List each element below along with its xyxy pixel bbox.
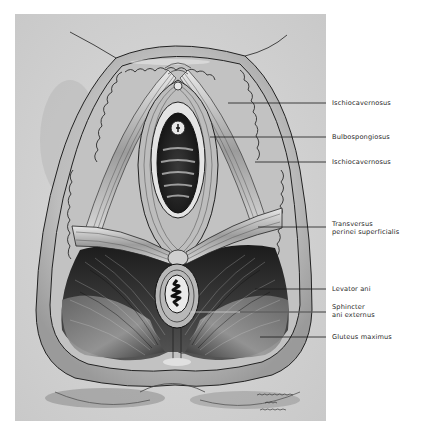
clitoris: [174, 82, 182, 90]
shadow-bottom-right: [190, 391, 300, 409]
label-text: Gluteus maximus: [332, 333, 392, 341]
label-ischiocavernosus-1: Ischiocavernosus: [332, 99, 391, 107]
label-text: Levator ani: [332, 285, 371, 293]
label-text-line-2: perinei superficialis: [332, 228, 399, 236]
label-sphincter-ani-externus: Sphincter ani externus: [332, 303, 375, 320]
fat-highlight: [130, 59, 210, 65]
shadow-bottom-left: [45, 388, 165, 408]
label-text-line-1: Transversus: [332, 220, 399, 228]
label-text: Ischiocavernosus: [332, 158, 391, 166]
label-text-line-2: ani externus: [332, 311, 375, 319]
label-text: Bulbospongiosus: [332, 133, 390, 141]
label-transversus-perinei-superficialis: Transversus perinei superficialis: [332, 220, 399, 237]
label-gluteus-maximus: Gluteus maximus: [332, 333, 392, 341]
label-levator-ani: Levator ani: [332, 285, 371, 293]
perineum-illustration: [0, 0, 426, 421]
label-bulbospongiosus: Bulbospongiosus: [332, 133, 390, 141]
coccyx-highlight: [163, 358, 191, 366]
label-ischiocavernosus-2: Ischiocavernosus: [332, 158, 391, 166]
label-text-line-1: Sphincter: [332, 303, 375, 311]
label-text: Ischiocavernosus: [332, 99, 391, 107]
